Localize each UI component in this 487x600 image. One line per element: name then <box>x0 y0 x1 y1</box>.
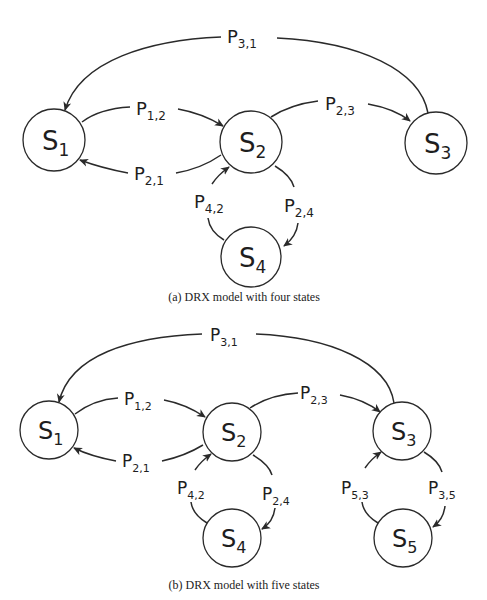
label-p31-b: P3,1 <box>210 325 238 349</box>
edge-p24-a-bottom <box>284 223 298 246</box>
edge-p23-b-right <box>340 395 380 412</box>
state-s4-a: S4 <box>221 227 281 287</box>
label-p21-b: P2,1 <box>122 451 150 475</box>
label-p23-b: P2,3 <box>300 383 328 407</box>
edge-p23-a-right <box>368 104 410 121</box>
edge-p42-a-bottom <box>208 218 224 240</box>
label-p31-a: P3,1 <box>227 26 257 51</box>
edge-p21-b-left <box>74 448 116 461</box>
edge-p24-a-top <box>275 166 294 187</box>
edge-p24-b-bottom <box>262 508 275 529</box>
edge-p23-b-left <box>250 393 298 408</box>
edge-p31-b-right <box>256 334 394 403</box>
diagram-b: S1 S2 S3 S4 S5 P1,2 P2,1 P2,3 P3,1 P2,4 … <box>20 325 456 592</box>
edge-p31-a-right <box>277 38 428 113</box>
edge-p53-b-bottom <box>362 502 378 523</box>
label-p42-b: P4,2 <box>177 478 205 502</box>
state-s3-b: S3 <box>373 402 431 460</box>
label-p53-b: P5,3 <box>341 478 369 502</box>
edge-p35-b-top <box>424 452 442 472</box>
state-s2-b: S2 <box>203 403 261 461</box>
state-s3-a: S3 <box>405 112 467 174</box>
edge-p53-b-top <box>365 452 381 468</box>
edge-p12-b-right <box>164 400 205 417</box>
edge-p42-b-top <box>195 454 211 470</box>
label-p12-a: P1,2 <box>136 98 166 123</box>
edge-p42-b-bottom <box>191 502 207 523</box>
state-s5-b: S5 <box>374 509 432 567</box>
drx-figure: S1 S2 S3 S4 P1,2 P2,1 P2,3 P3,1 P2,4 P4,… <box>0 0 487 600</box>
caption-b: (b) DRX model with five states <box>169 578 320 592</box>
edge-p12-a-left <box>82 107 130 122</box>
state-s4-b: S4 <box>203 509 261 567</box>
edge-p42-a-top <box>212 167 229 184</box>
edge-p23-a-left <box>271 101 318 117</box>
label-p21-a: P2,1 <box>134 163 164 188</box>
label-p35-b: P3,5 <box>428 478 456 502</box>
edge-p35-b-bottom <box>433 506 445 527</box>
edge-p21-a-right <box>176 155 221 173</box>
state-s1-a: S1 <box>23 109 85 171</box>
label-p24-b: P2,4 <box>262 484 290 508</box>
label-p23-a: P2,3 <box>325 93 355 118</box>
label-p42-a: P4,2 <box>194 191 224 216</box>
caption-a: (a) DRX model with four states <box>168 290 320 304</box>
label-p24-a: P2,4 <box>284 195 314 220</box>
edge-p12-a-right <box>178 109 223 126</box>
diagram-a: S1 S2 S3 S4 P1,2 P2,1 P2,3 P3,1 P2,4 P4,… <box>23 26 467 304</box>
state-s1-b: S1 <box>20 401 78 459</box>
edge-p21-a-left <box>80 160 128 173</box>
state-s2-a: S2 <box>220 111 282 173</box>
label-p12-b: P1,2 <box>124 389 152 413</box>
edge-p24-b-top <box>253 455 272 475</box>
edge-p21-b-right <box>162 445 203 461</box>
edge-p12-b-left <box>75 398 118 414</box>
